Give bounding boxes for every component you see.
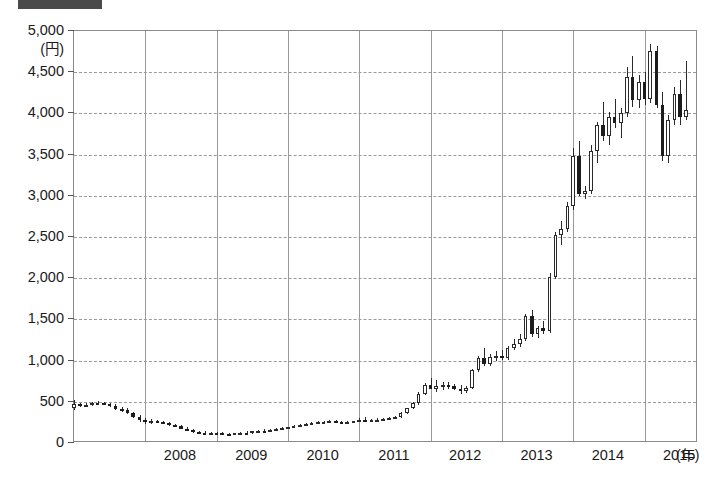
y-axis-tick [68,401,74,402]
y-axis-tick [68,236,74,237]
y-axis-unit-label: (円) [2,42,64,57]
y-axis-tick-label: 0 [2,435,64,450]
y-axis-tick [68,277,74,278]
y-axis-tick [68,154,74,155]
y-axis-tick [68,112,74,113]
y-axis-tick [68,71,74,72]
y-axis-tick-label: 1,000 [2,353,64,368]
y-axis-tick-label: 1,500 [2,311,64,326]
y-axis: 5,0004,5004,0003,5003,0002,5002,0001,500… [0,0,713,482]
y-axis-tick-label: 3,500 [2,147,64,162]
x-axis-tick-label: 2010 [297,448,349,463]
y-axis-tick [68,360,74,361]
y-axis-tick-label: 4,500 [2,64,64,79]
y-axis-tick [68,442,74,443]
y-axis-tick-label: 5,000 [2,23,64,38]
y-axis-tick [68,195,74,196]
x-axis-tick-label: 2011 [368,448,420,463]
y-axis-tick-label: 500 [2,394,64,409]
y-axis-tick-label: 2,000 [2,270,64,285]
y-axis-tick-label: 3,000 [2,188,64,203]
y-axis-tick [68,318,74,319]
x-axis-unit-label: (年) [676,448,699,463]
x-axis-tick-label: 2013 [511,448,563,463]
y-axis-tick-label: 2,500 [2,229,64,244]
stock-candlestick-chart: 5,0004,5004,0003,5003,0002,5002,0001,500… [0,0,713,482]
y-axis-tick-label: 4,000 [2,105,64,120]
x-axis-tick-label: 2014 [582,448,634,463]
x-axis-tick-label: 2009 [225,448,277,463]
x-axis-tick-label: 2008 [154,448,206,463]
y-axis-tick [68,30,74,31]
x-axis-tick-label: 2012 [439,448,491,463]
